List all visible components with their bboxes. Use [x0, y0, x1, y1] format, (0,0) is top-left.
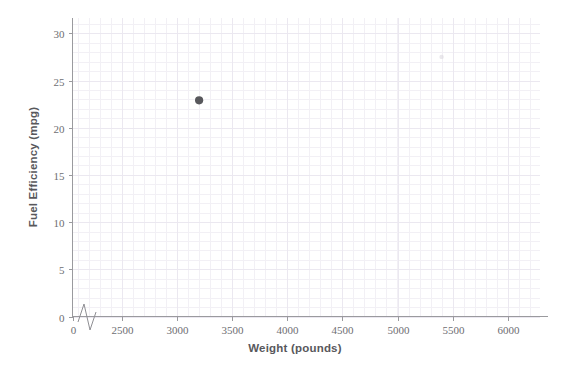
x-tick-label: 5000 — [388, 324, 411, 336]
y-tick-label: 30 — [54, 28, 66, 40]
data-point — [195, 96, 203, 104]
chart-canvas: 051015202530 025003000350040004500500055… — [0, 0, 564, 371]
x-tick-label: 0 — [71, 324, 77, 336]
data-point — [439, 55, 443, 59]
y-tick-label: 10 — [54, 217, 66, 229]
x-tick-label: 4000 — [277, 324, 300, 336]
figure-background — [0, 0, 564, 371]
x-tick-label: 4500 — [332, 324, 355, 336]
scatter-plot-figure: 051015202530 025003000350040004500500055… — [0, 0, 564, 371]
x-tick-label: 3500 — [222, 324, 245, 336]
y-tick-label: 20 — [54, 123, 66, 135]
x-tick-label: 6000 — [498, 324, 521, 336]
y-axis-title: Fuel Efficiency (mpg) — [27, 107, 39, 228]
x-tick-label: 3000 — [167, 324, 190, 336]
y-tick-label: 5 — [59, 264, 65, 276]
y-tick-label: 25 — [54, 76, 66, 88]
y-tick-label: 15 — [54, 170, 66, 182]
x-tick-label: 5500 — [443, 324, 466, 336]
y-tick-label: 0 — [59, 312, 65, 324]
x-axis-title: Weight (pounds) — [248, 342, 342, 354]
x-tick-label: 2500 — [112, 324, 135, 336]
